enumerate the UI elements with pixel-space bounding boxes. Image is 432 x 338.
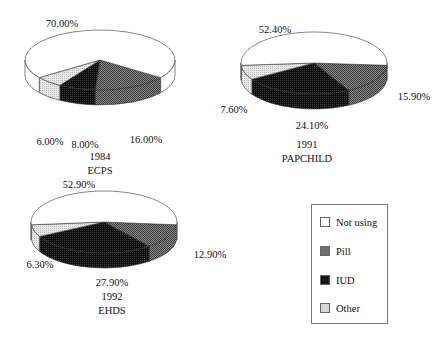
legend-item-iud: IUD xyxy=(320,273,355,287)
slice-percent-label: 16.00% xyxy=(130,134,163,145)
pie-year-label: 1992 xyxy=(102,291,123,302)
pie-chart-1991-papchild: 52.40%15.90%24.10%7.60%1991PAPCHILD xyxy=(220,24,430,164)
chart-legend: Not using Pill IUD Other xyxy=(311,204,388,324)
pie-survey-label: ECPS xyxy=(87,165,112,176)
slice-percent-label: 70.00% xyxy=(46,18,79,29)
slice-percent-label: 12.90% xyxy=(194,249,227,260)
legend-label: Not using xyxy=(336,217,377,228)
slice-percent-label: 8.00% xyxy=(71,139,98,150)
legend-item-pill: Pill xyxy=(320,244,351,258)
pie-year-label: 1991 xyxy=(297,139,318,150)
pie-chart-1984-ecps: 70.00%16.00%8.00%6.00%1984ECPS xyxy=(25,18,175,176)
pie-survey-label: EHDS xyxy=(98,305,126,316)
legend-item-not-using: Not using xyxy=(320,215,377,229)
pill-swatch-icon xyxy=(320,246,330,256)
pie-survey-label: PAPCHILD xyxy=(282,153,333,164)
pie-year-label: 1984 xyxy=(90,151,112,162)
legend-label: Pill xyxy=(336,246,351,257)
slice-percent-label: 27.90% xyxy=(96,277,129,288)
slice-percent-label: 6.00% xyxy=(36,136,63,147)
legend-label: Other xyxy=(336,303,360,314)
pie-chart-1992-ehds: 52.90%12.90%27.90%6.30%1992EHDS xyxy=(26,179,226,316)
slice-percent-label: 52.90% xyxy=(63,179,96,190)
slice-percent-label: 15.90% xyxy=(398,91,431,102)
slice-percent-label: 24.10% xyxy=(296,120,329,131)
slice-percent-label: 6.30% xyxy=(26,259,53,270)
not-using-swatch-icon xyxy=(320,217,330,227)
legend-item-other: Other xyxy=(320,301,360,315)
slice-percent-label: 7.60% xyxy=(220,104,247,115)
slice-percent-label: 52.40% xyxy=(259,24,292,35)
iud-swatch-icon xyxy=(320,275,330,285)
other-swatch-icon xyxy=(320,303,330,313)
legend-label: IUD xyxy=(336,275,355,286)
